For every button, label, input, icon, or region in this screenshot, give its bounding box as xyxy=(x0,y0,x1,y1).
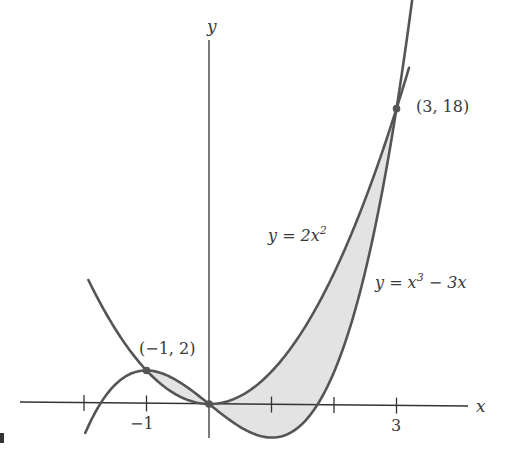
point-marker xyxy=(143,367,151,375)
point-marker xyxy=(205,400,213,408)
point-label-minus1-2: (−1, 2) xyxy=(139,341,195,357)
cubic-label-exponent: 3 xyxy=(417,271,424,284)
parabola-equation-label: y = 2x2 xyxy=(268,228,327,244)
x-axis-label: x xyxy=(476,398,486,415)
shaded-region xyxy=(147,109,397,438)
x-tick-label-3: 3 xyxy=(391,418,401,434)
cubic-label-text: y = x xyxy=(375,273,417,292)
point-marker xyxy=(393,105,401,113)
corner-artifact xyxy=(0,433,4,443)
parabola-label-text: y = 2x xyxy=(268,226,320,245)
point-label-3-18: (3, 18) xyxy=(416,99,469,115)
cubic-equation-label: y = x3 − 3x xyxy=(375,275,466,291)
area-between-curves-figure xyxy=(0,0,507,453)
x-tick-label-minus-1: −1 xyxy=(130,416,154,432)
y-axis-label: y xyxy=(207,18,217,35)
parabola-label-exponent: 2 xyxy=(320,224,327,237)
cubic-label-suffix: − 3x xyxy=(424,273,467,292)
axes xyxy=(20,40,468,438)
shaded-area xyxy=(147,109,397,438)
